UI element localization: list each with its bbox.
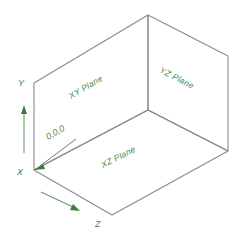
origin-leader-line	[40, 139, 76, 166]
z-axis-label: Z	[94, 219, 101, 229]
xy-plane-label: XY Plane	[66, 73, 104, 101]
xz-plane-outline	[34, 110, 228, 215]
y-axis-arrow	[21, 105, 27, 153]
y-axis-arrow-head	[21, 105, 27, 114]
diagram-canvas: XY Plane YZ Plane XZ Plane Y X Z 0,0,0	[0, 0, 243, 237]
z-axis-arrow-head	[70, 204, 80, 211]
origin-label: 0,0,0	[44, 123, 66, 142]
box-wireframe	[34, 15, 228, 215]
coordinate-planes-diagram: XY Plane YZ Plane XZ Plane Y X Z 0,0,0	[0, 0, 243, 237]
z-axis-arrow	[41, 192, 80, 211]
x-axis-label: X	[16, 167, 24, 177]
origin-leader	[34, 139, 76, 170]
xz-plane-label: XZ Plane	[98, 144, 137, 170]
y-axis-label: Y	[18, 78, 25, 88]
z-axis-arrow-line	[41, 192, 73, 207]
origin-leader-arrow-head	[34, 164, 45, 170]
yz-plane-label: YZ Plane	[158, 65, 196, 91]
